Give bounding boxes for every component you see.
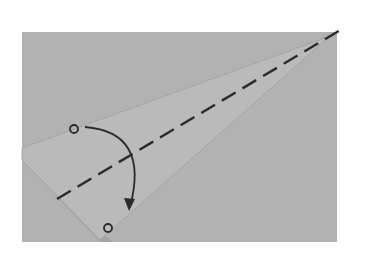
- fold-diagram: [0, 0, 367, 256]
